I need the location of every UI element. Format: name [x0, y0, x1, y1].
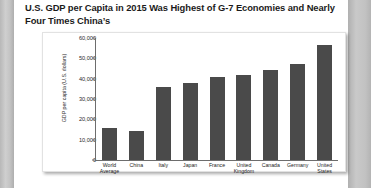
y-tick-label: 20,000: [50, 116, 96, 122]
y-tick-label: 0: [50, 157, 96, 163]
bar: [236, 75, 251, 160]
y-tick-label: 40,000: [50, 76, 96, 82]
bar-slot: [150, 38, 177, 160]
page-gutter-left: [0, 0, 14, 188]
bar: [263, 70, 278, 160]
x-axis-line: [95, 160, 338, 161]
y-tick-label: 50,000: [50, 55, 96, 61]
bar: [290, 64, 305, 160]
bar-slot: [204, 38, 231, 160]
bar-slot: [311, 38, 338, 160]
category-label: World Average: [96, 162, 123, 174]
page-gutter-right: [348, 0, 371, 188]
chart-panel: GDP per capita (U.S. dollars) 010,00020,…: [42, 32, 346, 172]
bar-slot: [230, 38, 257, 160]
category-label: Germany: [284, 162, 311, 174]
bar: [102, 128, 117, 160]
bar: [183, 83, 198, 160]
plot-area: GDP per capita (U.S. dollars) 010,00020,…: [43, 33, 345, 171]
category-label: Italy: [150, 162, 177, 174]
category-label: France: [204, 162, 231, 174]
category-label: China: [123, 162, 150, 174]
bar-slot: [96, 38, 123, 160]
bar-slot: [123, 38, 150, 160]
scanned-page: U.S. GDP per Capita in 2015 Was Highest …: [0, 0, 371, 188]
category-label: United Kingdom: [230, 162, 257, 174]
y-tick-label: 30,000: [50, 96, 96, 102]
bar: [317, 45, 332, 160]
x-axis-category-labels: World AverageChinaItalyJapanFranceUnited…: [96, 162, 338, 174]
bar-series: [96, 38, 338, 160]
bar-slot: [257, 38, 284, 160]
y-tick-label: 60,000: [50, 35, 96, 41]
category-label: Japan: [177, 162, 204, 174]
category-label: United States: [311, 162, 338, 174]
bar: [210, 77, 225, 160]
category-label: Canada: [257, 162, 284, 174]
y-axis-ticks: 010,00020,00030,00040,00050,00060,000: [43, 33, 96, 171]
y-tick-label: 10,000: [50, 137, 96, 143]
bar-slot: [177, 38, 204, 160]
bar: [129, 131, 144, 160]
figure-title: U.S. GDP per Capita in 2015 Was Highest …: [25, 2, 337, 27]
page-sheet: U.S. GDP per Capita in 2015 Was Highest …: [14, 0, 348, 188]
bar-slot: [284, 38, 311, 160]
bar: [156, 87, 171, 160]
